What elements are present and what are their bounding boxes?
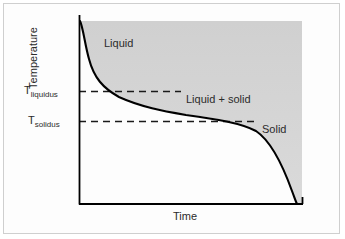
region-label-liquid-solid: Liquid + solid [186, 94, 251, 105]
t-solidus-symbol: T [28, 114, 35, 126]
x-axis-label: Time [130, 210, 240, 222]
t-liquidus-subscript: liquidus [31, 90, 58, 99]
t-liquidus-label: Tliquidus [24, 85, 58, 99]
region-label-liquid: Liquid [104, 38, 133, 49]
t-solidus-label: Tsolidus [28, 115, 60, 129]
cooling-curve-figure: Temperature Time Tliquidus Tsolidus Liqu… [0, 0, 345, 239]
region-label-solid: Solid [262, 124, 286, 135]
t-solidus-subscript: solidus [35, 120, 60, 129]
t-liquidus-symbol: T [24, 84, 31, 96]
